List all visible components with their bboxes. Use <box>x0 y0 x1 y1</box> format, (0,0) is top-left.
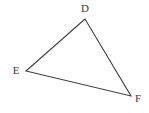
triangle-drawing <box>0 0 149 113</box>
vertex-label-f: F <box>135 93 141 104</box>
triangle-def <box>26 19 131 96</box>
vertex-label-d: D <box>81 3 89 14</box>
geometry-figure: D E F <box>0 0 149 113</box>
vertex-label-e: E <box>13 65 20 76</box>
